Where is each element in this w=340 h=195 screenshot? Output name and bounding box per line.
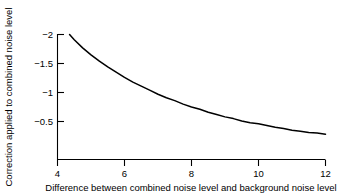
x-tick-label: 8	[189, 168, 194, 179]
y-axis-title: Correction applied to combined noise lev…	[3, 7, 14, 186]
x-tick-label: 12	[320, 168, 331, 179]
x-tick-label: 4	[55, 168, 60, 179]
chart-figure: −2 −1.5 −1 −0.5 4 6 8 10 12 Difference b…	[0, 0, 340, 195]
y-tick-label: −2	[42, 29, 53, 40]
y-tick-label: −0.5	[34, 116, 53, 127]
x-tick-label: 6	[122, 168, 127, 179]
y-tick-label: −1	[42, 87, 53, 98]
data-series-line	[70, 35, 326, 135]
y-tick-label: −1.5	[34, 58, 53, 69]
chart-canvas: −2 −1.5 −1 −0.5 4 6 8 10 12 Difference b…	[0, 0, 340, 195]
x-tick-label: 10	[253, 168, 264, 179]
y-tick-marks	[58, 35, 64, 122]
x-axis-title: Difference between combined noise level …	[45, 182, 336, 193]
x-tick-marks	[58, 160, 326, 166]
